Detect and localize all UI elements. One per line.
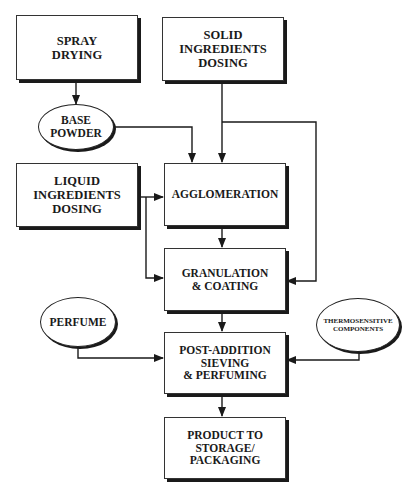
node-solid-ingredients-dosing: SOLID INGREDIENTS DOSING [162, 17, 284, 81]
edge-base-to-agglomeration [114, 127, 192, 162]
node-label: SPRAY DRYING [52, 34, 102, 62]
edge-perfume-to-post [78, 347, 163, 358]
node-thermosensitive-components: THERMOSENSITIVE COMPONENTS [316, 298, 400, 352]
node-agglomeration: AGGLOMERATION [164, 163, 286, 226]
node-post-addition-sieving-perfuming: POST-ADDITION SIEVING & PERFUMING [164, 332, 286, 394]
node-label: LIQUID INGREDIENTS DOSING [33, 174, 121, 216]
node-label: POST-ADDITION SIEVING & PERFUMING [179, 344, 271, 383]
node-base-powder: BASE POWDER [38, 104, 114, 150]
node-label: SOLID INGREDIENTS DOSING [179, 28, 267, 70]
node-label: BASE POWDER [50, 114, 102, 140]
node-product-to-storage-packaging: PRODUCT TO STORAGE/ PACKAGING [164, 417, 286, 479]
node-spray-drying: SPRAY DRYING [16, 15, 138, 80]
node-label: THERMOSENSITIVE COMPONENTS [323, 317, 392, 334]
node-label: GRANULATION & COATING [182, 267, 269, 293]
node-liquid-ingredients-dosing: LIQUID INGREDIENTS DOSING [16, 163, 138, 227]
edge-liquid-to-granulation [146, 197, 163, 278]
node-label: PRODUCT TO STORAGE/ PACKAGING [187, 429, 263, 468]
node-label: AGGLOMERATION [172, 188, 279, 201]
node-granulation-coating: GRANULATION & COATING [164, 248, 286, 311]
edge-thermo-to-post [287, 352, 359, 360]
node-perfume: PERFUME [40, 297, 116, 347]
node-label: PERFUME [50, 316, 107, 329]
